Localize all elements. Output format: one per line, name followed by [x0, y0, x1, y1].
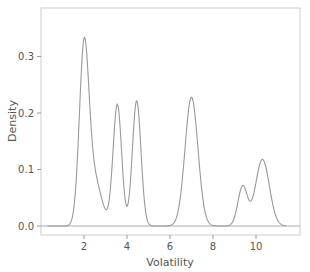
x-tick-label: 4: [124, 241, 130, 252]
y-axis-label: Density: [6, 100, 19, 142]
density-chart: 246810 0.00.10.20.3 Volatility Density: [0, 0, 310, 272]
plot-frame: [41, 8, 300, 235]
x-tick-label: 2: [81, 241, 87, 252]
x-tick-label: 8: [210, 241, 216, 252]
y-tick-label: 0.2: [18, 108, 34, 119]
x-tick-label: 10: [250, 241, 263, 252]
x-tick-label: 6: [167, 241, 173, 252]
x-axis-ticks: 246810: [81, 235, 263, 252]
density-curve: [47, 37, 286, 226]
y-tick-label: 0.3: [18, 51, 34, 62]
y-tick-label: 0.1: [18, 164, 34, 175]
x-axis-label: Volatility: [146, 256, 194, 269]
y-axis-ticks: 0.00.10.20.3: [18, 51, 41, 232]
y-tick-label: 0.0: [18, 221, 34, 232]
